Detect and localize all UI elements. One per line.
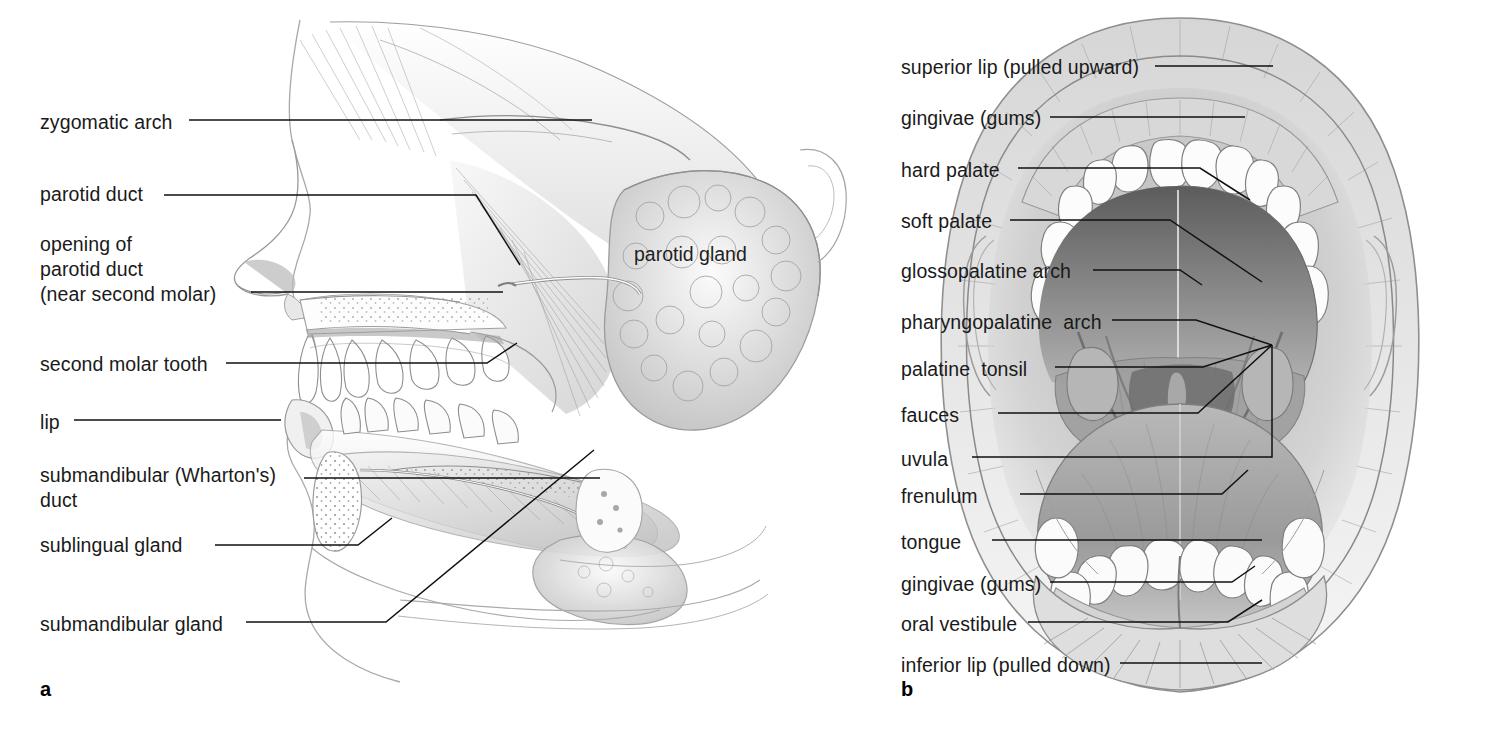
label-gingivae-upper: gingivae (gums) (901, 106, 1041, 131)
label-superior-lip: superior lip (pulled upward) (901, 55, 1139, 80)
label-frenulum: frenulum (901, 484, 978, 509)
leader-frenulum (1020, 470, 1248, 494)
leader-glossopalatine-arch (1093, 270, 1202, 285)
label-hard-palate: hard palate (901, 158, 1000, 183)
leader-hard-palate (1018, 168, 1250, 200)
label-glossopalatine-arch: glossopalatine arch (901, 259, 1071, 284)
leader-gingivae-lower (1050, 566, 1255, 582)
leader-fauces (998, 345, 1272, 413)
label-submandibular-whartons-duct: submandibular (Wharton's) duct (40, 463, 276, 513)
label-pharyngopalatine-arch: pharyngopalatine arch (901, 310, 1102, 335)
label-lip: lip (40, 410, 60, 435)
panel-letter-a: a (40, 678, 51, 701)
leader-pharyngopalatine-arch (1112, 320, 1272, 345)
leader-parotid-duct (164, 195, 520, 265)
leader-second-molar-tooth (226, 343, 517, 363)
anatomy-figure: zygomatic arch parotid duct opening of p… (0, 0, 1490, 750)
label-fauces: fauces (901, 403, 959, 428)
leader-oral-vestibule (1028, 600, 1262, 622)
label-parotid-gland: parotid gland (634, 243, 747, 266)
label-parotid-duct: parotid duct (40, 182, 143, 207)
label-uvula: uvula (901, 447, 948, 472)
leader-sublingual-gland (215, 518, 392, 545)
label-soft-palate: soft palate (901, 209, 992, 234)
leader-submandibular-gland (246, 450, 594, 622)
label-gingivae-lower: gingivae (gums) (901, 572, 1041, 597)
leader-palatine-tonsil (1055, 345, 1272, 367)
label-second-molar-tooth: second molar tooth (40, 352, 208, 377)
label-sublingual-gland: sublingual gland (40, 533, 183, 558)
panel-letter-b: b (901, 678, 913, 701)
label-tongue: tongue (901, 530, 961, 555)
label-inferior-lip: inferior lip (pulled down) (901, 653, 1111, 678)
label-palatine-tonsil: palatine tonsil (901, 357, 1027, 382)
label-oral-vestibule: oral vestibule (901, 612, 1017, 637)
label-opening-of-parotid-duct: opening of parotid duct (near second mol… (40, 232, 216, 307)
label-zygomatic-arch: zygomatic arch (40, 110, 173, 135)
label-submandibular-gland: submandibular gland (40, 612, 223, 637)
leader-lines (0, 0, 1490, 750)
